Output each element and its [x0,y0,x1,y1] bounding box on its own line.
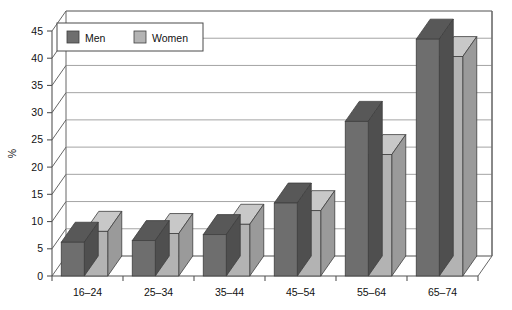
y-tick-label: 45 [31,25,43,37]
legend-item[interactable]: Men [67,31,106,44]
bar-men [274,183,311,276]
x-tick-label: 16–24 [73,286,102,298]
legend-swatch [134,31,146,43]
x-tick-label: 35–44 [215,286,244,298]
bar-front-face [203,235,226,276]
x-tick-group [52,276,478,281]
axis-depth-connector [52,120,66,140]
bar-front-face [61,242,84,276]
axis-depth-connector [52,174,66,194]
y-tick-label: 5 [37,242,43,254]
axis-depth-connector [52,93,66,113]
legend-swatch [67,31,79,43]
y-tick-label: 20 [31,161,43,173]
bar-front-face [416,39,439,276]
axis-depth-connector [52,65,66,85]
bar-side-face [368,101,382,276]
y-tick-label: 25 [31,133,43,145]
floor-right-depth-edge [478,256,492,276]
x-tick-label: 25–34 [144,286,173,298]
y-tick-label: 30 [31,106,43,118]
x-tick-label: 55–64 [357,286,386,298]
bar-front-face [345,121,368,276]
y-tick-group [47,31,52,276]
bar-side-face [463,37,477,276]
legend-label: Men [85,32,106,44]
bar-side-face [439,19,453,276]
axis-depth-connector [52,202,66,222]
legend-item[interactable]: Women [134,31,188,44]
bar-side-face [392,135,406,276]
y-axis-title: % [6,149,18,158]
bar-front-face [132,241,155,276]
bar-front-face [274,203,297,276]
chart-canvas: 051015202530354045%16–2425–3435–4445–545… [0,0,512,310]
legend: MenWomen [57,23,203,51]
x-tick-label: 65–74 [428,286,457,298]
bar-chart: 051015202530354045%16–2425–3435–4445–545… [0,0,512,310]
x-tick-label: 45–54 [286,286,315,298]
y-tick-label: 15 [31,188,43,200]
y-tick-label: 35 [31,79,43,91]
y-tick-label: 10 [31,215,43,227]
y-tick-label: 40 [31,52,43,64]
legend-label: Women [152,32,188,44]
bar-men [345,101,382,276]
bar-men [416,19,453,276]
y-tick-label: 0 [37,270,43,282]
axis-depth-connector [52,147,66,167]
